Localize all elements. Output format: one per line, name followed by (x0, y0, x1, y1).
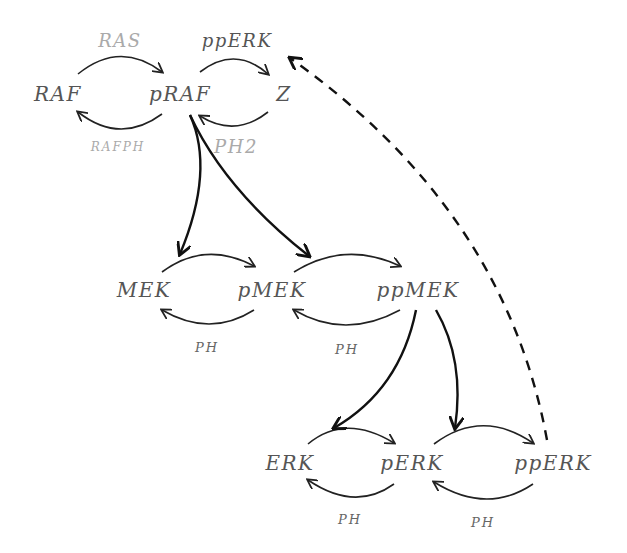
pmek-reverse-arc (294, 310, 400, 325)
erk-reverse-arc (308, 480, 394, 497)
enzyme-ph-mek-label: PH (195, 340, 219, 355)
praf-to-mek-arrow (180, 115, 200, 254)
species-pperk: ppERK (514, 451, 592, 475)
enzyme-ph-pmek-label: PH (335, 342, 359, 357)
species-praf: pRAF (149, 82, 211, 106)
pmek-forward-arc (294, 254, 400, 272)
erk-forward-arc (308, 428, 394, 444)
species-pmek: pMEK (238, 278, 307, 302)
species-z: Z (276, 82, 291, 106)
species-erk: ERK (265, 451, 314, 475)
perk-forward-arc (434, 426, 533, 444)
mek-forward-arc (162, 254, 254, 272)
raf-forward-arc (78, 56, 162, 74)
ppmek-to-erk-arrow (334, 310, 416, 428)
raf-reverse-arc (78, 112, 162, 129)
enzyme-ph2-label: PH2 (214, 136, 258, 157)
enzyme-ph-perk-label: PH (471, 515, 495, 530)
z-reverse-arc (200, 112, 268, 126)
pperk-feedback-arrow (290, 58, 547, 440)
enzyme-pperk-label: ppERK (202, 30, 273, 51)
enzyme-ph-erk-label: PH (338, 512, 362, 527)
species-raf: RAF (34, 82, 82, 106)
species-ppmek: ppMEK (376, 278, 459, 302)
species-mek: MEK (117, 278, 172, 302)
ppmek-to-perk-arrow (436, 310, 458, 428)
z-forward-arc (200, 59, 268, 74)
perk-reverse-arc (434, 482, 533, 499)
enzyme-ras-label: RAS (98, 30, 141, 51)
species-perk: pERK (380, 451, 443, 475)
mek-reverse-arc (162, 310, 254, 324)
enzyme-rafph-label: RAFPH (91, 140, 146, 154)
